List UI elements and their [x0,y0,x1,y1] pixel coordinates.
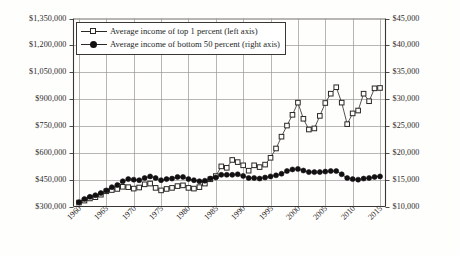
right-axis-tick-20000: $20,000 [393,149,420,157]
right-axis-tick-10000: $10,000 [393,203,420,211]
right-axis-tick-30000: $30,000 [393,95,420,103]
income-inequality-chart: Average income of top 1 percent (left ax… [0,0,460,255]
left-axis-tick-750000: $750,000 [35,122,66,130]
right-axis-tick-25000: $25,000 [393,122,420,130]
left-axis-tick-450000: $450,000 [35,176,66,184]
right-axis-tick-15000: $15,000 [393,176,420,184]
left-axis-tick-1200000: $1,200,000 [29,41,66,49]
legend-label-top-1-percent: Average income of top 1 percent (left ax… [110,27,258,36]
left-axis-tick-600000: $600,000 [35,149,66,157]
left-axis-tick-1050000: $1,050,000 [29,68,66,76]
right-axis-tick-35000: $35,000 [393,68,420,76]
open-square-marker-icon [81,26,107,37]
left-axis-tick-300000: $300,000 [35,203,66,211]
right-axis-tick-45000: $45,000 [393,15,420,23]
filled-circle-marker-icon [81,39,107,50]
legend-item-top-1-percent: Average income of top 1 percent (left ax… [81,25,280,38]
legend-label-bottom-50-percent: Average income of bottom 50 percent (rig… [110,40,280,49]
legend-item-bottom-50-percent: Average income of bottom 50 percent (rig… [81,38,280,51]
left-axis-tick-1350000: $1,350,000 [29,15,66,23]
right-axis-tick-40000: $40,000 [393,41,420,49]
left-axis-tick-900000: $900,000 [35,95,66,103]
chart-legend: Average income of top 1 percent (left ax… [76,22,286,55]
